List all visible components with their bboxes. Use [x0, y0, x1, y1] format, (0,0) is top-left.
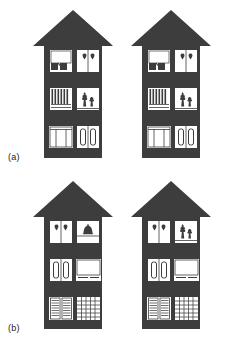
house-a-right [130, 8, 212, 160]
house-b-right [130, 179, 212, 331]
panel-a: (a) [0, 0, 236, 170]
window-bottom-right-lattice [77, 297, 100, 320]
window-middle-left-vertical-blinds [148, 88, 170, 110]
window-middle-right-plain [76, 259, 101, 281]
window-middle-right-plants [77, 88, 99, 110]
window-top-left-roller-blind [50, 50, 72, 72]
window-middle-left-tall-panels [50, 259, 72, 281]
window-bottom-left-louvred-shutters [49, 297, 73, 320]
window-top-right-plants [175, 221, 197, 243]
window-top-left-roller-blind [148, 50, 170, 72]
window-top-left-hearts [50, 221, 72, 243]
window-middle-right-plain [174, 259, 199, 281]
window-bottom-right-lattice [175, 297, 198, 320]
panel-b: (b) [0, 171, 236, 341]
window-bottom-right-tall-panels [77, 126, 99, 148]
window-middle-left-tall-panels [148, 259, 170, 281]
figure-container: (a) [0, 0, 236, 341]
window-bottom-left-mullioned [49, 126, 73, 148]
panel-a-label: (a) [8, 152, 20, 162]
window-middle-left-vertical-blinds [50, 88, 72, 110]
window-top-right-hearts [77, 50, 99, 72]
house-b-left [32, 179, 114, 331]
window-top-left-hearts [148, 221, 170, 243]
window-middle-right-plants [175, 88, 197, 110]
window-bottom-left-mullioned [147, 126, 171, 148]
window-top-right-hearts [175, 50, 197, 72]
panel-b-label: (b) [8, 323, 20, 333]
window-bottom-right-tall-panels [175, 126, 197, 148]
window-top-right-bell [77, 221, 99, 243]
house-a-left [32, 8, 114, 160]
window-bottom-left-louvred-shutters [147, 297, 171, 320]
